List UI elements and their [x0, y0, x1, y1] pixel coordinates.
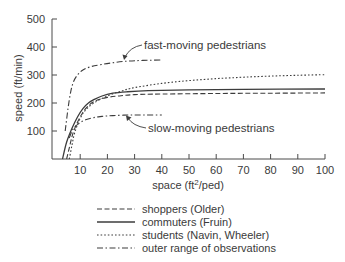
slow-moving-arrowhead — [126, 116, 132, 122]
legend-item: commuters (Fruin) — [97, 216, 232, 228]
legend-label: shoppers (Older) — [142, 203, 225, 215]
legend-item: students (Navin, Wheeler) — [97, 229, 269, 241]
x-tick-label: 100 — [316, 164, 334, 176]
x-tick-label: 10 — [74, 164, 86, 176]
speed-space-chart: 100200300400500 102030405060708090100 sp… — [0, 0, 345, 262]
y-tick-label: 100 — [27, 125, 45, 137]
y-tick-label: 500 — [27, 13, 45, 25]
y-tick-label: 200 — [27, 97, 45, 109]
y-axis-label: speed (ft/min) — [12, 54, 24, 121]
legend-label: commuters (Fruin) — [142, 216, 232, 228]
y-tick-label: 400 — [27, 41, 45, 53]
x-tick-label: 20 — [101, 164, 113, 176]
x-ticks: 102030405060708090100 — [74, 154, 334, 176]
x-tick-label: 60 — [210, 164, 222, 176]
x-axis-label-post: /ped) — [199, 179, 224, 191]
series-lines — [63, 60, 326, 159]
x-tick-label: 70 — [237, 164, 249, 176]
legend-item: shoppers (Older) — [97, 203, 225, 215]
y-tick-label: 300 — [27, 69, 45, 81]
x-axis-label: space (ft2/ped) — [152, 178, 224, 191]
x-tick-label: 90 — [292, 164, 304, 176]
legend-label: students (Navin, Wheeler) — [142, 229, 269, 241]
legend: shoppers (Older)commuters (Fruin)student… — [97, 203, 276, 254]
slow-moving-arrow — [128, 118, 146, 128]
annotations: fast-moving pedestrians slow-moving pede… — [123, 39, 275, 134]
legend-item: outer range of observations — [97, 242, 276, 254]
x-tick-label: 40 — [156, 164, 168, 176]
legend-label: outer range of observations — [142, 242, 276, 254]
fast-moving-arrowhead — [123, 55, 128, 61]
x-tick-label: 30 — [128, 164, 140, 176]
x-tick-label: 50 — [183, 164, 195, 176]
fast-moving-arrow — [125, 45, 142, 57]
x-tick-label: 80 — [264, 164, 276, 176]
fast-moving-label: fast-moving pedestrians — [144, 39, 266, 51]
slow-moving-label: slow-moving pedestrians — [148, 122, 275, 134]
x-axis-label-pre: space (ft — [152, 179, 194, 191]
series-line-students-navin-wheeler — [69, 75, 325, 159]
